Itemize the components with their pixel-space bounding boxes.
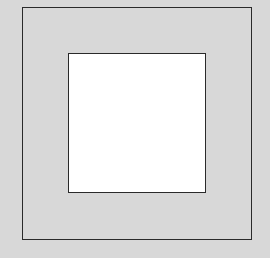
diagram-canvas [0,0,270,258]
inner-square [68,53,206,193]
